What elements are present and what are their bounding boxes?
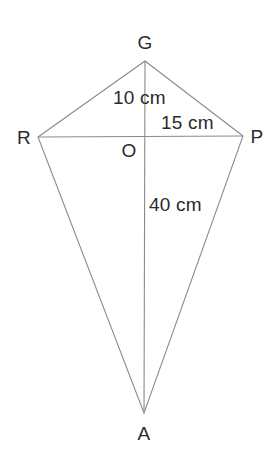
kite-figure-svg (0, 0, 275, 458)
vertex-label-a: A (138, 424, 151, 443)
vertex-label-r: R (17, 128, 31, 147)
vertex-label-p: P (251, 127, 264, 146)
measurement-label-oa: 40 cm (149, 195, 202, 214)
kite-diagram: G R P A O 10 cm 15 cm 40 cm (0, 0, 275, 458)
vertex-label-o: O (122, 141, 137, 160)
vertex-label-g: G (138, 33, 153, 52)
measurement-label-op: 15 cm (161, 113, 214, 132)
diagonal-r-p (38, 136, 243, 137)
diagonal-g-a (144, 61, 145, 413)
measurement-label-go: 10 cm (113, 88, 166, 107)
